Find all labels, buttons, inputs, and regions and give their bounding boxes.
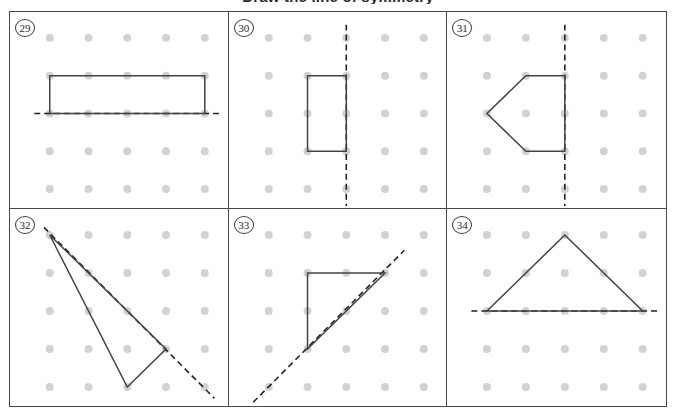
shape-outline xyxy=(50,235,166,387)
grid-dot xyxy=(561,269,569,277)
grid-dot xyxy=(123,34,131,42)
grid-dot xyxy=(483,345,491,353)
grid-dot xyxy=(85,231,93,239)
grid-dot xyxy=(162,383,170,391)
grid-dot xyxy=(483,269,491,277)
grid-dot xyxy=(46,345,54,353)
grid-dot xyxy=(162,231,170,239)
panel-canvas xyxy=(447,209,666,406)
grid-dot xyxy=(342,383,350,391)
grid-dot xyxy=(639,185,647,193)
grid-dot xyxy=(522,34,530,42)
grid-dot xyxy=(264,345,272,353)
grid-dot xyxy=(264,147,272,155)
panel-canvas xyxy=(10,12,228,208)
grid-dot xyxy=(123,345,131,353)
grid-dot xyxy=(85,185,93,193)
grid-dot xyxy=(483,383,491,391)
grid-dot xyxy=(522,383,530,391)
grid-dot xyxy=(600,110,608,118)
grid-dot xyxy=(381,345,389,353)
grid-dot xyxy=(522,185,530,193)
grid-dot xyxy=(85,345,93,353)
grid-dot xyxy=(600,185,608,193)
grid-dot xyxy=(46,34,54,42)
grid-dot xyxy=(342,345,350,353)
grid-dot xyxy=(303,383,311,391)
grid-dot xyxy=(381,110,389,118)
grid-dot xyxy=(123,185,131,193)
grid-dot xyxy=(46,185,54,193)
grid-dot xyxy=(303,231,311,239)
grid-dot xyxy=(522,345,530,353)
grid-dot xyxy=(381,383,389,391)
shape-outline xyxy=(307,76,346,152)
geoboard-panel: 32 xyxy=(10,209,229,406)
grid-dot xyxy=(123,231,131,239)
grid-dot xyxy=(123,147,131,155)
grid-dot xyxy=(201,34,209,42)
grid-dot xyxy=(46,269,54,277)
shape-outline xyxy=(50,76,205,114)
grid-dot xyxy=(85,34,93,42)
grid-dot xyxy=(264,72,272,80)
grid-dot xyxy=(419,110,427,118)
geoboard-panel: 30 xyxy=(229,12,448,209)
grid-dot xyxy=(483,231,491,239)
grid-dot xyxy=(264,110,272,118)
geoboard-panel: 33 xyxy=(229,209,448,406)
grid-dot xyxy=(381,231,389,239)
grid-dot xyxy=(483,72,491,80)
grid-dot xyxy=(162,147,170,155)
grid-dot xyxy=(46,307,54,315)
grid-dot xyxy=(201,185,209,193)
grid-dot xyxy=(419,307,427,315)
grid-dot xyxy=(264,269,272,277)
grid-dot xyxy=(85,383,93,391)
grid-dot xyxy=(483,147,491,155)
grid-dot xyxy=(381,34,389,42)
grid-dot xyxy=(162,307,170,315)
grid-dot xyxy=(419,72,427,80)
panel-canvas xyxy=(10,209,228,406)
panel-canvas xyxy=(229,12,447,208)
grid-dot xyxy=(639,147,647,155)
grid-dot xyxy=(85,147,93,155)
geoboard-panel: 31 xyxy=(447,12,666,209)
grid-dot xyxy=(600,147,608,155)
panel-canvas xyxy=(447,12,666,208)
grid-dot xyxy=(381,147,389,155)
grid-dot xyxy=(639,110,647,118)
grid-dot xyxy=(264,307,272,315)
grid-dot xyxy=(600,34,608,42)
grid-dot xyxy=(46,147,54,155)
grid-dot xyxy=(303,185,311,193)
grid-dot xyxy=(46,383,54,391)
shape-outline xyxy=(307,273,385,349)
grid-dot xyxy=(419,147,427,155)
grid-dot xyxy=(639,231,647,239)
panel-grid: 293031323334 xyxy=(9,11,667,407)
grid-dot xyxy=(162,34,170,42)
grid-dot xyxy=(381,72,389,80)
grid-dot xyxy=(639,383,647,391)
grid-dot xyxy=(342,231,350,239)
grid-dot xyxy=(522,110,530,118)
grid-dot xyxy=(381,185,389,193)
grid-dot xyxy=(201,231,209,239)
grid-dot xyxy=(639,34,647,42)
grid-dot xyxy=(201,307,209,315)
grid-dot xyxy=(201,147,209,155)
grid-dot xyxy=(600,345,608,353)
grid-dot xyxy=(522,231,530,239)
grid-dot xyxy=(419,231,427,239)
grid-dot xyxy=(419,345,427,353)
grid-dot xyxy=(381,307,389,315)
grid-dot xyxy=(162,185,170,193)
grid-dot xyxy=(303,34,311,42)
grid-dot xyxy=(419,185,427,193)
grid-dot xyxy=(483,185,491,193)
grid-dot xyxy=(561,345,569,353)
grid-dot xyxy=(600,383,608,391)
geoboard-panel: 34 xyxy=(447,209,666,406)
